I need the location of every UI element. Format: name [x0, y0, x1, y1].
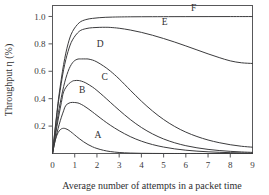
x-tick-label: 6: [184, 160, 189, 170]
plot-frame: [53, 6, 253, 154]
curve-series-labels: ABCDEF: [79, 3, 196, 140]
x-tick-label: 0: [50, 160, 55, 170]
x-tick-label: 7: [206, 160, 211, 170]
y-axis-ticks: [49, 16, 53, 126]
curve-label-E: E: [162, 17, 168, 27]
curve-label-B: B: [79, 85, 85, 95]
axis-frame: [53, 6, 253, 154]
x-axis-ticks: [75, 154, 231, 158]
curve-label-A: A: [95, 130, 102, 140]
curve-B: [53, 102, 253, 153]
x-tick-label: 8: [228, 160, 233, 170]
x-tick-label: 5: [161, 160, 166, 170]
x-tick-label: 1: [72, 160, 77, 170]
y-axis-title: Throughput η (%): [3, 44, 15, 116]
y-tick-label: 0.6: [34, 66, 46, 76]
curve-label-C: C: [102, 72, 108, 82]
y-tick-label: 0.4: [34, 94, 46, 104]
curve-label-D: D: [97, 39, 104, 49]
x-tick-label: 4: [139, 160, 144, 170]
x-tick-label: 2: [95, 160, 100, 170]
curve-label-F: F: [191, 3, 196, 13]
chart-plot-area: 0.20.40.60.81.0 0123456789 ABCDEF Averag…: [0, 0, 269, 195]
x-tick-label: 3: [117, 160, 122, 170]
y-axis-tick-labels: 0.20.40.60.81.0: [34, 12, 46, 132]
x-tick-label: 9: [250, 160, 255, 170]
y-tick-label: 1.0: [34, 12, 46, 22]
x-axis-tick-labels: 0123456789: [50, 160, 255, 170]
curve-A: [53, 128, 253, 153]
x-axis-title: Average number of attempts in a packet t…: [62, 180, 242, 191]
y-tick-label: 0.2: [34, 121, 45, 131]
y-tick-label: 0.8: [34, 39, 46, 49]
throughput-chart-figure: 0.20.40.60.81.0 0123456789 ABCDEF Averag…: [0, 0, 269, 195]
curve-D: [53, 59, 253, 154]
